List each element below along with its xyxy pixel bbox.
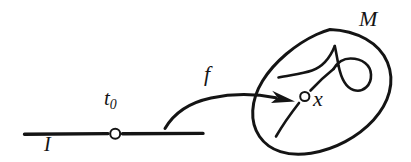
label-t0: t0 <box>104 88 117 112</box>
x-point-marker <box>300 92 309 101</box>
label-manifold-m: M <box>359 8 377 30</box>
t0-point-marker <box>110 129 120 139</box>
label-t0-subscript: 0 <box>110 97 117 112</box>
figure-canvas: t0 I f x M <box>0 0 411 162</box>
map-arrow <box>165 91 295 129</box>
manifold-curve <box>276 46 371 137</box>
label-interval: I <box>44 134 51 154</box>
label-point-x: x <box>313 88 323 110</box>
label-map-f: f <box>204 63 210 85</box>
